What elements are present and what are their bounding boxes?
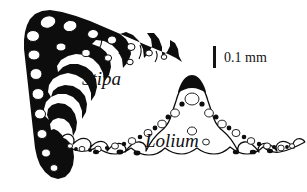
- lolium-lumen: [67, 144, 72, 149]
- stipa-lumen: [161, 55, 167, 60]
- stipa-lumen: [35, 109, 46, 119]
- lolium-sclerenchyma-dot: [105, 146, 109, 150]
- lolium-lumen: [232, 129, 240, 136]
- stipa-lumen: [30, 69, 42, 80]
- lolium-lumen: [112, 143, 119, 149]
- lolium-sclerenchyma-dot: [63, 143, 66, 146]
- lolium-sclerenchyma-dot: [227, 126, 232, 131]
- label-lolium: Lolium: [144, 130, 199, 151]
- lolium-lumen: [264, 143, 271, 149]
- lolium-sclerenchyma-dot: [117, 150, 124, 155]
- lolium-lumen: [128, 138, 136, 145]
- stipa-lumen: [82, 49, 90, 56]
- stipa-lumen: [50, 165, 58, 172]
- stipa-lumen: [127, 59, 133, 65]
- figure-canvas: 0.1 mm Stipa Lolium: [0, 0, 307, 192]
- scale-bar-tick: [213, 46, 216, 68]
- lolium-sclerenchyma-dot: [122, 142, 126, 146]
- lolium-sclerenchyma-dot: [166, 115, 171, 120]
- lolium-sclerenchyma-dot: [88, 148, 92, 152]
- label-stipa: Stipa: [82, 68, 121, 89]
- stipa-lumen: [32, 89, 44, 100]
- stipa-lumen: [27, 31, 40, 42]
- lolium-midrib-lumen: [185, 93, 199, 105]
- lolium-sclerenchyma-dot: [93, 150, 99, 154]
- leaf-cross-section-plate: 0.1 mm Stipa Lolium: [0, 0, 307, 192]
- stipa-lumen: [28, 50, 40, 60]
- lolium-sclerenchyma-dot: [74, 147, 78, 151]
- lolium-lumen: [205, 109, 214, 117]
- stipa-lumen: [42, 149, 51, 157]
- lolium-sclerenchyma-dot: [257, 142, 261, 146]
- lolium-sclerenchyma-dot: [214, 115, 219, 120]
- lolium-lumen: [247, 138, 255, 145]
- lolium-sclerenchyma-dot: [179, 101, 184, 106]
- stipa-lumen: [104, 55, 111, 61]
- lolium-sclerenchyma-dot: [250, 150, 256, 155]
- stipa-lumen: [146, 50, 153, 56]
- scale-bar-label: 0.1 mm: [224, 50, 267, 65]
- lolium-sclerenchyma-dot: [233, 150, 239, 155]
- lolium-sclerenchyma-dot: [267, 149, 273, 153]
- lolium-sclerenchyma-dot: [272, 145, 276, 149]
- lolium-lumen: [79, 146, 85, 151]
- lolium-sclerenchyma-dot: [199, 101, 204, 106]
- lolium-sclerenchyma-dot: [138, 135, 143, 140]
- stipa-lumen: [56, 43, 66, 51]
- lolium-sclerenchyma-dot: [285, 145, 289, 149]
- lolium-sclerenchyma-dot: [242, 135, 247, 140]
- lolium-lumen: [278, 145, 284, 151]
- lolium-sclerenchyma-dot: [134, 151, 141, 156]
- lolium-lumen: [218, 120, 226, 128]
- lolium-lumen: [158, 120, 166, 128]
- stipa-lumen: [37, 130, 47, 139]
- lolium-lumen: [171, 109, 180, 117]
- lolium-lumen: [203, 139, 210, 145]
- lolium-lumen: [289, 144, 294, 149]
- stipa-lumen: [127, 44, 135, 51]
